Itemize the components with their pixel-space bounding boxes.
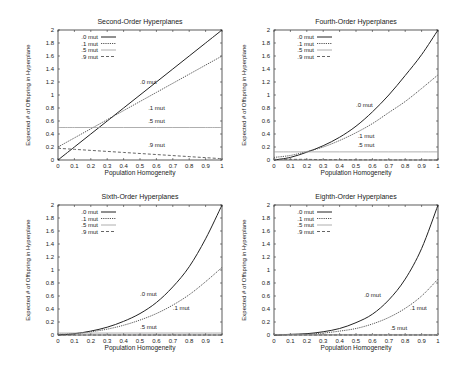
y-tick-label: 1.4 xyxy=(46,241,55,247)
legend-label: .5 mut xyxy=(81,47,98,53)
curve-annotation: .1 mut xyxy=(148,105,165,111)
y-tick-label: 0.6 xyxy=(262,118,271,124)
y-tick-label: 0.4 xyxy=(46,131,55,137)
chart-title: Sixth-Order Hyperplanes xyxy=(101,193,179,201)
x-tick-label: 0.2 xyxy=(303,163,312,169)
y-tick-label: 1.2 xyxy=(46,79,55,85)
legend-label: .5 mut xyxy=(297,47,314,53)
curve-annotation: .1 mut xyxy=(358,133,375,139)
y-tick-label: 0.8 xyxy=(262,105,271,111)
x-tick-label: 0.2 xyxy=(87,163,96,169)
y-tick-label: 0.6 xyxy=(262,293,271,299)
x-tick-label: 1 xyxy=(436,338,440,344)
y-tick-label: 0.8 xyxy=(46,280,55,286)
y-tick-label: 0.2 xyxy=(262,144,271,150)
curve-annotation: .0 mut xyxy=(364,292,381,298)
y-tick-label: 0.8 xyxy=(46,105,55,111)
y-tick-label: 0.2 xyxy=(262,319,271,325)
x-axis-label: Population Homogeneity xyxy=(105,344,177,352)
legend-label: .9 mut xyxy=(297,229,314,235)
y-tick-label: 1 xyxy=(267,267,271,273)
x-tick-label: 0.8 xyxy=(401,338,410,344)
y-tick-label: 1 xyxy=(267,92,271,98)
chart-sixth-order: Sixth-Order Hyperplanes00.10.20.30.40.50… xyxy=(0,175,231,362)
legend-label: .1 mut xyxy=(297,216,314,222)
legend-label: .5 mut xyxy=(297,222,314,228)
y-tick-label: 1.6 xyxy=(46,228,55,234)
plot-svg: Sixth-Order Hyperplanes00.10.20.30.40.50… xyxy=(0,175,231,362)
legend-label: .0 mut xyxy=(81,34,98,40)
legend-label: .0 mut xyxy=(297,34,314,40)
x-tick-label: 0.1 xyxy=(70,163,79,169)
y-tick-label: 0.6 xyxy=(46,118,55,124)
y-tick-label: 0.4 xyxy=(262,306,271,312)
curve-annotation: .5 mut xyxy=(148,118,165,124)
series-line xyxy=(58,56,222,147)
x-tick-label: 0.9 xyxy=(417,338,426,344)
curve-annotation: .0 mut xyxy=(356,102,373,108)
chart-title: Eighth-Order Hyperplanes xyxy=(315,193,397,201)
x-axis-label: Population Homogeneity xyxy=(321,344,393,352)
series-line xyxy=(274,75,438,158)
plot-svg: Eighth-Order Hyperplanes00.10.20.30.40.5… xyxy=(216,175,447,362)
legend-label: .0 mut xyxy=(297,209,314,215)
legend-label: .1 mut xyxy=(297,41,314,47)
x-tick-label: 0.9 xyxy=(201,338,210,344)
curve-annotation: .5 mut xyxy=(390,325,407,331)
x-tick-label: 0 xyxy=(56,338,60,344)
chart-title: Fourth-Order Hyperplanes xyxy=(315,18,397,26)
curve-annotation: .1 mut xyxy=(173,305,190,311)
curve-annotation: .5 mut xyxy=(140,324,157,330)
legend-label: .9 mut xyxy=(81,54,98,60)
x-tick-label: 0.2 xyxy=(87,338,96,344)
plot-svg: Second-Order Hyperplanes00.10.20.30.40.5… xyxy=(0,0,231,187)
y-tick-label: 1.6 xyxy=(262,53,271,59)
x-tick-label: 0.8 xyxy=(401,163,410,169)
plot-svg: Fourth-Order Hyperplanes00.10.20.30.40.5… xyxy=(216,0,447,187)
y-tick-label: 1.4 xyxy=(262,241,271,247)
y-axis-label: Expected # of Offspring in Hyperplane xyxy=(241,44,247,146)
chart-fourth-order: Fourth-Order Hyperplanes00.10.20.30.40.5… xyxy=(216,0,447,187)
y-tick-label: 1.8 xyxy=(262,215,271,221)
x-tick-label: 0.8 xyxy=(185,338,194,344)
y-axis-label: Expected # of Offspring in Hyperplane xyxy=(241,219,247,321)
y-tick-label: 2 xyxy=(267,27,271,33)
y-tick-label: 1.8 xyxy=(262,40,271,46)
x-tick-label: 0 xyxy=(272,163,276,169)
x-tick-label: 0.1 xyxy=(286,338,295,344)
y-tick-label: 1 xyxy=(51,267,55,273)
x-tick-label: 0.8 xyxy=(185,163,194,169)
curve-annotation: .9 mut xyxy=(148,142,165,148)
y-tick-label: 0 xyxy=(51,332,55,338)
y-tick-label: 2 xyxy=(51,202,55,208)
y-tick-label: 1.4 xyxy=(46,66,55,72)
y-tick-label: 0.8 xyxy=(262,280,271,286)
y-tick-label: 1.4 xyxy=(262,66,271,72)
x-tick-label: 0.1 xyxy=(286,163,295,169)
legend-label: .1 mut xyxy=(81,41,98,47)
y-tick-label: 0.4 xyxy=(46,306,55,312)
x-tick-label: 0 xyxy=(272,338,276,344)
chart-eighth-order: Eighth-Order Hyperplanes00.10.20.30.40.5… xyxy=(216,175,447,362)
legend-label: .1 mut xyxy=(81,216,98,222)
y-tick-label: 1 xyxy=(51,92,55,98)
curve-annotation: .1 mut xyxy=(410,305,427,311)
curve-annotation: .0 mut xyxy=(140,291,157,297)
series-line xyxy=(58,148,222,158)
x-tick-label: 1 xyxy=(436,163,440,169)
x-tick-label: 0.2 xyxy=(303,338,312,344)
chart-title: Second-Order Hyperplanes xyxy=(97,18,183,26)
y-tick-label: 1.8 xyxy=(46,40,55,46)
curve-annotation: .0 mut xyxy=(140,79,157,85)
legend-label: .9 mut xyxy=(81,229,98,235)
y-tick-label: 0 xyxy=(51,157,55,163)
chart-second-order: Second-Order Hyperplanes00.10.20.30.40.5… xyxy=(0,0,231,187)
y-tick-label: 1.2 xyxy=(262,79,271,85)
y-tick-label: 2 xyxy=(267,202,271,208)
y-tick-label: 0.2 xyxy=(46,319,55,325)
y-tick-label: 1.6 xyxy=(46,53,55,59)
y-axis-label: Expected # of Offspring in Hyperplane xyxy=(25,219,31,321)
legend-label: .0 mut xyxy=(81,209,98,215)
y-tick-label: 0.2 xyxy=(46,144,55,150)
legend-label: .9 mut xyxy=(297,54,314,60)
